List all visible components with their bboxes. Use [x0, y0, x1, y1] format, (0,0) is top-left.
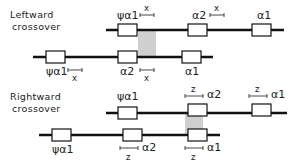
scale-bar: z [249, 84, 267, 98]
scale-label: x [72, 73, 77, 83]
panel-title-line1: Rightward [10, 91, 61, 102]
scale-label: z [126, 152, 131, 162]
gene-label-alpha2: α2 [207, 88, 221, 101]
crossover-region-hatch [139, 30, 155, 57]
gene-label-alpha2: α2 [120, 65, 134, 78]
gene-label-alpha1: α1 [207, 141, 221, 154]
scale-bar: x [210, 3, 224, 17]
scale-label: x [214, 3, 219, 13]
gene-box-psi-alpha1 [46, 51, 65, 63]
scale-label: x [144, 73, 149, 83]
scale-bar: z [185, 146, 203, 162]
gene-label-alpha1: α1 [257, 9, 271, 22]
gene-box-psi-alpha1 [118, 24, 137, 36]
scale-label: z [255, 84, 260, 94]
gene-label-psi-alpha1: ψα1 [117, 9, 139, 22]
rightward-crossover-panel: Rightward crossover ψα1 α2 α1 z [10, 84, 287, 162]
gene-box-alpha2 [118, 51, 137, 63]
gene-box-alpha1 [252, 104, 271, 116]
panel-title-line2: crossover [12, 21, 61, 32]
panel-title-line1: Leftward [10, 9, 54, 20]
bottom-chromosome: ψα1 α2 α1 z z [39, 129, 221, 162]
scale-bar: z [185, 84, 203, 98]
top-chromosome: ψα1 α2 α1 z z [106, 84, 287, 119]
top-chromosome: ψα1 α2 α1 x x [106, 3, 284, 36]
scale-label: z [191, 152, 196, 162]
gene-box-alpha1 [252, 24, 271, 36]
gene-label-alpha2: α2 [192, 9, 206, 22]
gene-box-psi-alpha1 [118, 107, 137, 119]
crossover-diagram: Leftward crossover ψα1 α2 α1 x [0, 0, 298, 166]
scale-bar: x [68, 68, 82, 83]
gene-label-psi-alpha1: ψα1 [117, 90, 139, 103]
gene-box-alpha2 [123, 129, 142, 141]
gene-box-alpha2 [188, 104, 207, 116]
scale-label: z [191, 84, 196, 94]
scale-bar: z [120, 146, 138, 162]
scale-bar: x [140, 3, 154, 17]
gene-label-alpha2: α2 [142, 141, 156, 154]
gene-label-alpha1: α1 [185, 65, 199, 78]
gene-box-psi-alpha1 [52, 129, 71, 141]
gene-box-alpha1 [182, 51, 201, 63]
panel-title-line2: crossover [12, 103, 61, 114]
leftward-crossover-panel: Leftward crossover ψα1 α2 α1 x [10, 3, 284, 83]
gene-box-alpha2 [188, 24, 207, 36]
scale-label: x [144, 3, 149, 13]
gene-box-alpha1 [188, 129, 207, 141]
gene-label-psi-alpha1: ψα1 [46, 65, 68, 78]
scale-bar: x [140, 68, 154, 83]
gene-label-alpha1: α1 [271, 88, 285, 101]
bottom-chromosome: ψα1 α2 α1 x x [33, 51, 213, 83]
gene-label-psi-alpha1: ψα1 [52, 143, 74, 156]
